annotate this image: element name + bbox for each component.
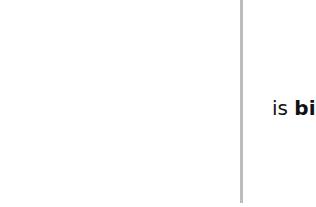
caption-prefix: is — [272, 96, 294, 120]
caption-emphasis: big — [294, 96, 316, 120]
screen: is big — [0, 0, 316, 207]
left-pane-blank — [0, 0, 240, 207]
caption-text: is big — [272, 96, 316, 120]
right-pane: is big — [243, 0, 316, 207]
